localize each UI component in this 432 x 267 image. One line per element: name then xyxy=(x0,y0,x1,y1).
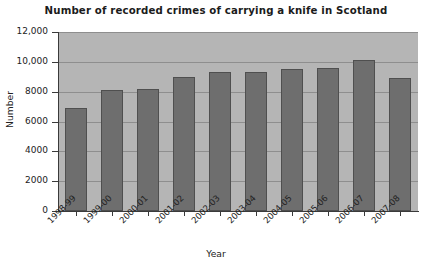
y-tick-label: 6000 xyxy=(25,117,48,126)
y-tick-label: 12,000 xyxy=(17,27,49,36)
y-tick xyxy=(52,181,58,182)
bar xyxy=(389,78,411,212)
x-tick xyxy=(112,212,113,216)
bar xyxy=(281,69,303,211)
y-tick-label: 10,000 xyxy=(17,57,49,66)
bar xyxy=(137,89,159,211)
bar xyxy=(209,72,231,211)
x-tick xyxy=(328,212,329,216)
y-tick-label: 2000 xyxy=(25,176,48,185)
y-tick xyxy=(52,32,58,33)
y-tick xyxy=(52,92,58,93)
x-tick xyxy=(256,212,257,216)
bar xyxy=(317,68,339,211)
bars-container xyxy=(58,32,418,211)
x-tick xyxy=(400,212,401,216)
plot-area xyxy=(58,32,418,211)
bar xyxy=(101,90,123,211)
bar xyxy=(245,72,267,211)
x-tick xyxy=(148,212,149,216)
bar-chart: Number of recorded crimes of carrying a … xyxy=(0,0,432,267)
y-tick-label: 4000 xyxy=(25,146,48,155)
x-tick xyxy=(220,212,221,216)
x-tick xyxy=(364,212,365,216)
x-axis-title: Year xyxy=(0,248,432,259)
y-tick-label: 0 xyxy=(42,206,48,215)
x-tick xyxy=(184,212,185,216)
y-axis-line xyxy=(58,32,59,212)
y-tick xyxy=(52,122,58,123)
bar xyxy=(353,60,375,211)
y-axis-title: Number xyxy=(4,80,15,140)
y-tick-label: 8000 xyxy=(25,87,48,96)
bar xyxy=(173,77,195,211)
y-tick xyxy=(52,151,58,152)
x-tick xyxy=(292,212,293,216)
x-tick xyxy=(76,212,77,216)
y-tick xyxy=(52,62,58,63)
chart-title: Number of recorded crimes of carrying a … xyxy=(0,5,432,16)
